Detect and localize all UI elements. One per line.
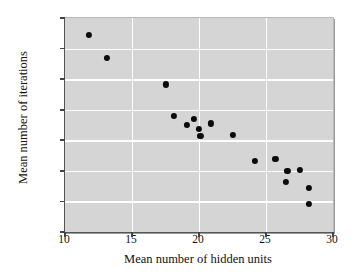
y-tick-mark bbox=[60, 139, 65, 141]
data-point bbox=[196, 126, 202, 132]
gridline-vertical bbox=[266, 18, 267, 232]
data-point bbox=[283, 178, 289, 184]
x-tick-mark bbox=[332, 232, 334, 237]
x-tick-mark bbox=[131, 232, 133, 237]
x-tick-mark bbox=[265, 232, 267, 237]
data-point bbox=[252, 158, 258, 164]
gridline-vertical bbox=[132, 18, 133, 232]
y-tick-mark bbox=[60, 201, 65, 203]
data-point bbox=[162, 81, 168, 87]
data-point bbox=[229, 132, 235, 138]
data-point bbox=[306, 201, 312, 207]
data-point bbox=[197, 133, 203, 139]
data-point bbox=[272, 156, 278, 162]
y-tick-mark bbox=[60, 48, 65, 50]
y-axis-title: Mean number of iterations bbox=[16, 11, 31, 225]
y-tick-mark bbox=[60, 17, 65, 19]
scatter-plot-figure: Mean number of iterations Mean number of… bbox=[0, 0, 355, 277]
plot-area bbox=[64, 17, 334, 233]
data-point bbox=[170, 113, 176, 119]
y-tick-mark bbox=[60, 109, 65, 111]
data-point bbox=[284, 168, 290, 174]
data-point bbox=[86, 32, 92, 38]
data-point bbox=[208, 120, 214, 126]
data-point bbox=[103, 55, 109, 61]
y-tick-mark bbox=[60, 170, 65, 172]
data-point bbox=[191, 116, 197, 122]
data-point bbox=[184, 122, 190, 128]
x-axis-title: Mean number of hidden units bbox=[64, 252, 332, 267]
x-tick-mark bbox=[198, 232, 200, 237]
y-tick-mark bbox=[60, 78, 65, 80]
x-tick-mark bbox=[64, 232, 66, 237]
data-point bbox=[296, 167, 302, 173]
data-point bbox=[306, 185, 312, 191]
